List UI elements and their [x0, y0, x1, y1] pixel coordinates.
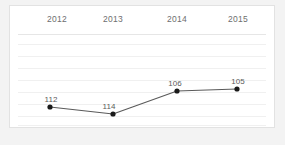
- axis-label-2012: 2012: [47, 14, 67, 24]
- axis-label-2015: 2015: [228, 14, 248, 24]
- chart-card: 2012 2013 2014 2015 112 114: [9, 5, 275, 128]
- data-line: [50, 89, 237, 114]
- data-point-marker: [47, 104, 52, 109]
- data-point-marker: [110, 111, 115, 116]
- data-label-2012: 112: [45, 95, 58, 104]
- data-label-2015: 105: [231, 77, 244, 86]
- data-point-marker: [174, 88, 179, 93]
- data-point-marker: [234, 86, 239, 91]
- category-axis-top: 2012 2013 2014 2015: [10, 6, 274, 35]
- data-label-2014: 106: [168, 79, 181, 88]
- chart-screenshot: 2012 2013 2014 2015 112 114: [0, 0, 285, 145]
- axis-label-2014: 2014: [167, 14, 187, 24]
- plot-area: 112 114 106 105: [10, 35, 274, 128]
- axis-label-2013: 2013: [103, 14, 123, 24]
- data-label-2013: 114: [103, 102, 116, 111]
